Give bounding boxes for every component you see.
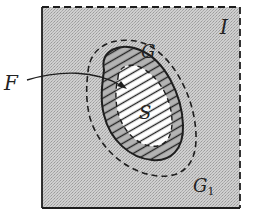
label-G1-subscript: 1 xyxy=(207,185,214,198)
label-I: I xyxy=(219,15,229,39)
label-G: G xyxy=(141,41,155,62)
label-F: F xyxy=(3,71,19,95)
set-diagram: I G F S G1 xyxy=(0,0,259,215)
label-G1-main: G xyxy=(193,175,207,196)
label-S: S xyxy=(139,102,151,123)
